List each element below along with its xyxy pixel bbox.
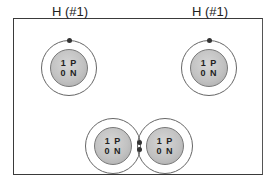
neutron-count: 0 N [60, 68, 77, 78]
electron-dot [67, 38, 72, 43]
shared-electron-dot [137, 140, 142, 145]
nucleus-left: 1 P 0 N [94, 127, 132, 165]
nucleus-right: 1 P 0 N [146, 127, 184, 165]
atom-label-left: H (#1) [40, 4, 100, 19]
proton-count: 1 P [61, 58, 78, 68]
proton-count: 1 P [201, 58, 218, 68]
nucleus: 1 P 0 N [190, 49, 228, 87]
proton-count: 1 P [105, 136, 122, 146]
neutron-count: 0 N [200, 68, 217, 78]
neutron-count: 0 N [156, 146, 173, 156]
nucleus: 1 P 0 N [50, 49, 88, 87]
atom-label-right: H (#1) [180, 4, 240, 19]
shared-electron-dot [137, 147, 142, 152]
electron-dot [207, 38, 212, 43]
neutron-count: 0 N [104, 146, 121, 156]
proton-count: 1 P [157, 136, 174, 146]
